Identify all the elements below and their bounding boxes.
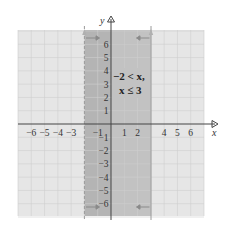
x-tick-label: 4 — [162, 128, 167, 138]
y-tick-label: −4 — [98, 173, 108, 183]
x-tick-label: −4 — [53, 128, 63, 138]
x-axis-label: x — [211, 127, 217, 138]
y-axis-label: y — [99, 15, 105, 26]
solution-region — [84, 30, 151, 216]
y-tick-label: 5 — [104, 53, 109, 63]
y-tick-label: 2 — [104, 93, 109, 103]
y-tick-label: 1 — [104, 106, 109, 116]
y-tick-label: −1 — [98, 133, 108, 143]
inequality-graph: x y −6−5−4−3−112456 654321−1−2−3−4−5−6 −… — [0, 0, 227, 231]
x-tick-label: −5 — [40, 128, 50, 138]
y-tick-label: −6 — [98, 199, 108, 209]
annotation-line-1: −2 < x, — [113, 70, 145, 82]
y-tick-label: 6 — [104, 40, 109, 50]
y-tick-label: 3 — [104, 80, 109, 90]
x-tick-label: −3 — [66, 128, 76, 138]
x-tick-label: 1 — [122, 128, 127, 138]
x-tick-label: 6 — [188, 128, 193, 138]
x-tick-label: −6 — [26, 128, 36, 138]
y-tick-label: 4 — [104, 66, 109, 76]
x-tick-label: 2 — [135, 128, 140, 138]
y-tick-label: −3 — [98, 159, 108, 169]
x-tick-label: 5 — [175, 128, 180, 138]
y-tick-label: −5 — [98, 186, 108, 196]
annotation-line-2: x ≤ 3 — [119, 84, 142, 96]
y-tick-label: −2 — [98, 146, 108, 156]
